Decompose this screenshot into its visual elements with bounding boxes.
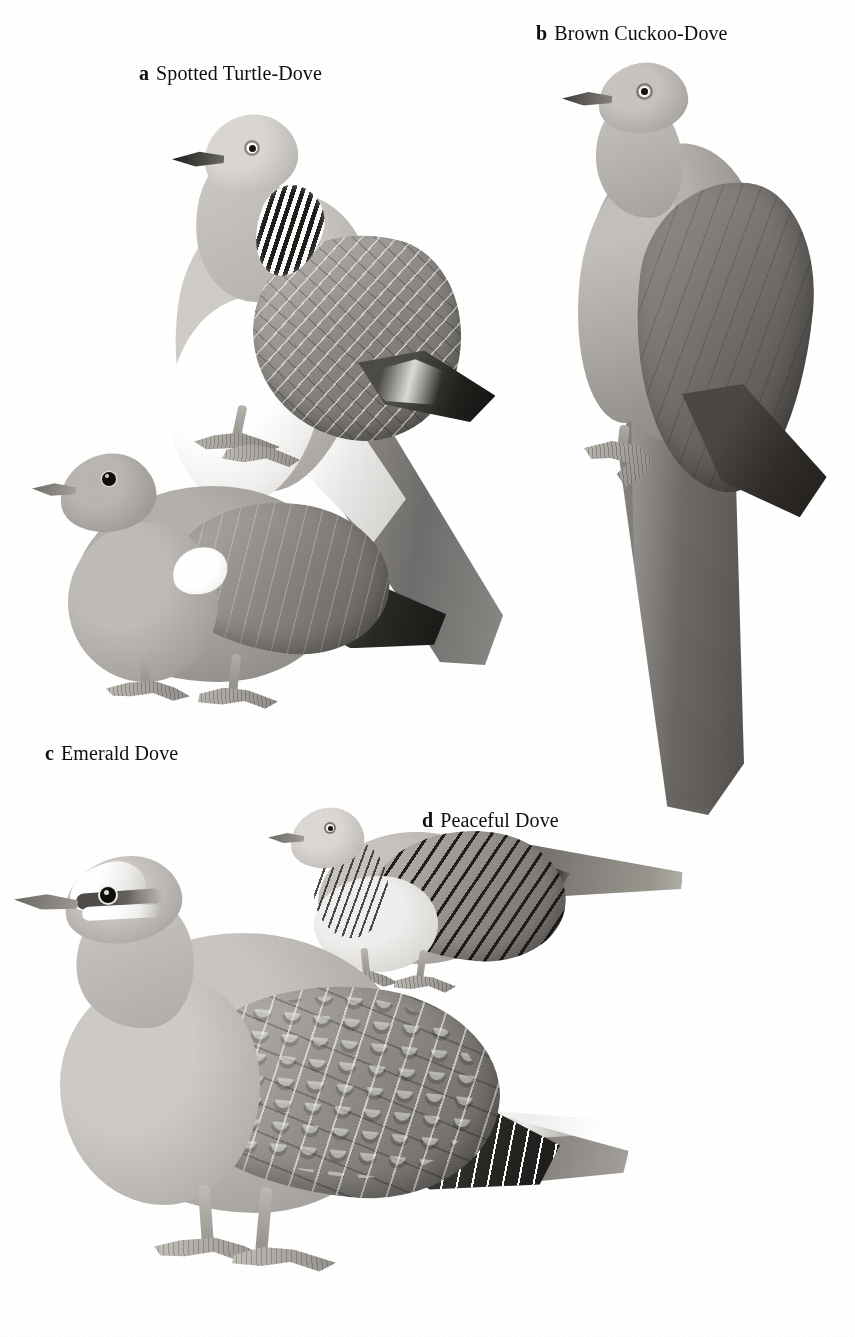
eye <box>102 472 116 486</box>
caption-c-letter: c <box>45 742 54 764</box>
caption-a: aSpotted Turtle-Dove <box>139 62 322 85</box>
foot <box>106 680 190 708</box>
eye <box>244 140 260 156</box>
bird-illustration-spotted-turtle-dove-standing <box>20 845 640 1325</box>
caption-c-name: Emerald Dove <box>61 742 178 764</box>
eye <box>636 83 653 100</box>
bird-illustration-brown-cuckoo-dove <box>560 55 855 815</box>
illustration-plate: aSpotted Turtle-Dove bBrown Cuckoo-Dove … <box>0 0 855 1337</box>
bird-illustration-emerald-dove <box>48 440 448 740</box>
eye <box>100 887 116 903</box>
caption-b-name: Brown Cuckoo-Dove <box>554 22 727 44</box>
eye <box>324 822 336 834</box>
caption-a-letter: a <box>139 62 149 84</box>
caption-b: bBrown Cuckoo-Dove <box>536 22 728 45</box>
foot <box>198 686 278 716</box>
caption-a-name: Spotted Turtle-Dove <box>156 62 322 84</box>
caption-b-letter: b <box>536 22 547 44</box>
caption-c: cEmerald Dove <box>45 742 178 765</box>
